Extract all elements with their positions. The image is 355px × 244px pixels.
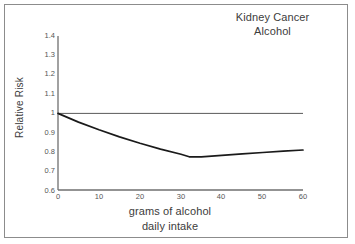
x-tick-label: 10 <box>87 193 111 201</box>
y-tick-label: 0.7 <box>33 167 55 175</box>
y-tick-label: 1.3 <box>33 51 55 59</box>
y-tick-label: 1.1 <box>33 90 55 98</box>
x-axis-label-line-1: grams of alcohol <box>95 204 245 219</box>
x-axis-label: grams of alcohol daily intake <box>95 204 245 234</box>
x-tick-label: 60 <box>291 193 315 201</box>
y-tick-label: 1.4 <box>33 32 55 40</box>
x-tick-label: 30 <box>169 193 193 201</box>
y-tick-label: 1.2 <box>33 70 55 78</box>
x-axis-label-line-2: daily intake <box>95 219 245 234</box>
risk-curve <box>58 113 303 156</box>
x-tick-label: 50 <box>250 193 274 201</box>
y-axis-label: Relative Risk <box>14 68 25 148</box>
y-tick-label: 0.8 <box>33 148 55 156</box>
x-tick-label: 20 <box>128 193 152 201</box>
chart-figure: Kidney Cancer Alcohol 1.4 1.3 1.2 1.1 1 … <box>0 0 355 244</box>
x-tick-label: 0 <box>46 193 70 201</box>
x-tick-label: 40 <box>209 193 233 201</box>
y-tick-label: 1 <box>33 109 55 117</box>
y-tick-label: 0.9 <box>33 129 55 137</box>
